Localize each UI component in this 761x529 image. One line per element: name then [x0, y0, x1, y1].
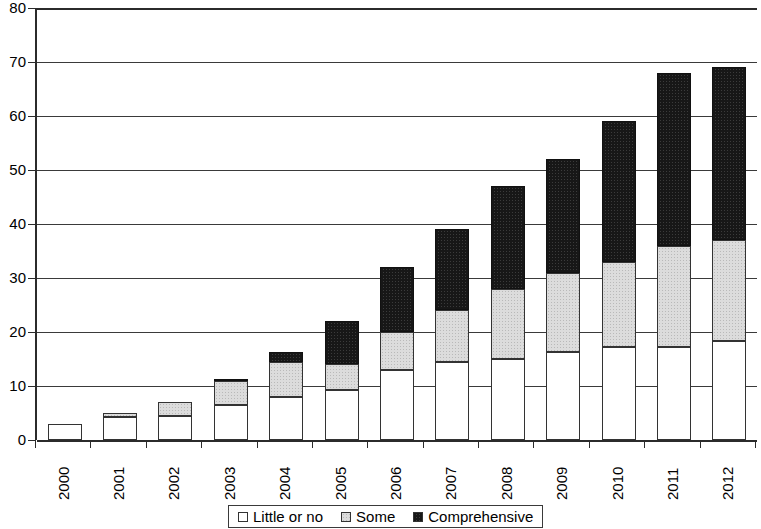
bar-segment-some: [602, 262, 636, 347]
legend-item-label: Little or no: [253, 509, 323, 524]
bar-segment-some: [491, 289, 525, 359]
y-axis-tick-label: 60: [0, 108, 26, 123]
y-axis-tick-mark: [28, 440, 35, 441]
y-axis-tick-mark: [28, 278, 35, 279]
x-axis-tick-label: 2011: [645, 448, 699, 502]
y-axis-tick-mark: [28, 116, 35, 117]
bar-segment-comprehensive: [712, 67, 746, 240]
bar-segment-little-or-no: [546, 352, 580, 440]
x-axis-tick-label-text: 2008: [499, 446, 515, 500]
legend-swatch-icon: [238, 512, 248, 522]
bar-segment-little-or-no: [158, 416, 192, 440]
x-axis-tick-label: 2002: [146, 448, 200, 502]
x-axis-tick-label-text: 2002: [166, 446, 182, 500]
legend-item: Some: [341, 509, 395, 524]
x-axis-tick-label: 2009: [534, 448, 588, 502]
bar-segment-little-or-no: [657, 347, 691, 440]
y-axis-tick-mark: [28, 8, 35, 9]
bar-group: [158, 402, 192, 440]
legend-item-label: Comprehensive: [428, 509, 533, 524]
x-axis-tick-mark: [201, 440, 202, 448]
bar-group: [325, 321, 359, 440]
x-axis-tick-label-text: 2001: [111, 446, 127, 500]
bar-segment-some: [657, 246, 691, 347]
bar-group: [491, 186, 525, 440]
bar-group: [103, 413, 137, 440]
x-axis-tick-mark: [146, 440, 147, 448]
y-axis-tick-label: 40: [0, 216, 26, 231]
y-axis-tick-mark: [28, 62, 35, 63]
x-axis-tick-label: 2001: [91, 448, 145, 502]
bar-segment-little-or-no: [269, 397, 303, 440]
x-axis-tick-label: 2010: [590, 448, 644, 502]
bar-segment-some: [214, 381, 248, 405]
bar-segment-some: [712, 240, 746, 341]
x-axis-tick-label-text: 2003: [222, 446, 238, 500]
y-axis-tick-mark: [28, 170, 35, 171]
x-axis-tick-label: 2007: [423, 448, 477, 502]
x-axis-tick-mark: [35, 440, 36, 448]
bar-segment-comprehensive: [214, 379, 248, 381]
x-axis-tick-label: 2000: [36, 448, 90, 502]
x-axis-tick-mark: [478, 440, 479, 448]
bar-segment-some: [435, 310, 469, 361]
legend-swatch-icon: [341, 512, 351, 522]
bar-segment-some: [269, 362, 303, 397]
x-axis-tick-label: 2004: [257, 448, 311, 502]
legend-item: Comprehensive: [413, 509, 533, 524]
x-axis-tick-mark: [644, 440, 645, 448]
bar-segment-little-or-no: [103, 417, 137, 440]
y-axis-tick-mark: [28, 386, 35, 387]
legend-swatch-icon: [413, 512, 423, 522]
x-axis-tick-label: 2008: [479, 448, 533, 502]
x-axis-tick-label-text: 2005: [333, 446, 349, 500]
x-axis-tick-mark: [589, 440, 590, 448]
plot-area: [35, 8, 755, 440]
y-axis-tick-label: 70: [0, 54, 26, 69]
bars-layer: [37, 8, 757, 440]
plot-region: 01020304050607080 2000200120022003200420…: [0, 0, 761, 450]
legend-item-label: Some: [356, 509, 395, 524]
bar-group: [435, 229, 469, 440]
x-axis-tick-label-text: 2012: [720, 446, 736, 500]
x-axis-tick-label-text: 2004: [277, 446, 293, 500]
y-axis-tick-label: 10: [0, 378, 26, 393]
bar-group: [48, 424, 82, 440]
bar-segment-some: [158, 402, 192, 416]
x-axis-tick-label-text: 2011: [665, 446, 681, 500]
x-axis-tick-label: 2003: [202, 448, 256, 502]
legend-item: Little or no: [238, 509, 323, 524]
y-axis-tick-label: 80: [0, 0, 26, 15]
bar-segment-some: [325, 364, 359, 389]
chart-legend: Little or noSomeComprehensive: [228, 505, 543, 528]
bar-group: [269, 352, 303, 440]
x-axis-tick-labels: 2000200120022003200420052006200720082009…: [35, 448, 755, 502]
x-axis-tick-mark: [90, 440, 91, 448]
bar-segment-comprehensive: [491, 186, 525, 289]
x-axis-tick-mark: [533, 440, 534, 448]
bar-segment-comprehensive: [380, 267, 414, 332]
bar-group: [380, 267, 414, 440]
y-axis-tick-mark: [28, 224, 35, 225]
bar-segment-some: [380, 332, 414, 370]
x-axis-tick-mark: [700, 440, 701, 448]
x-axis-tick-mark: [367, 440, 368, 448]
bar-segment-little-or-no: [712, 341, 746, 440]
y-axis-tick-label: 20: [0, 324, 26, 339]
x-axis-tick-label-text: 2006: [388, 446, 404, 500]
bar-segment-little-or-no: [214, 405, 248, 440]
x-axis-tick-label-text: 2009: [554, 446, 570, 500]
bar-segment-little-or-no: [325, 390, 359, 440]
x-axis-tick-label-text: 2010: [610, 446, 626, 500]
bar-group: [214, 381, 248, 440]
bar-segment-comprehensive: [602, 121, 636, 261]
bar-segment-some: [103, 413, 137, 417]
bar-segment-little-or-no: [602, 347, 636, 440]
stacked-bar-chart: 01020304050607080 2000200120022003200420…: [0, 0, 761, 529]
x-axis-tick-label: 2005: [313, 448, 367, 502]
bar-segment-comprehensive: [269, 352, 303, 362]
y-axis-tick-label: 30: [0, 270, 26, 285]
x-axis-tick-label-text: 2007: [443, 446, 459, 500]
bar-segment-little-or-no: [380, 370, 414, 440]
bar-segment-little-or-no: [435, 362, 469, 440]
